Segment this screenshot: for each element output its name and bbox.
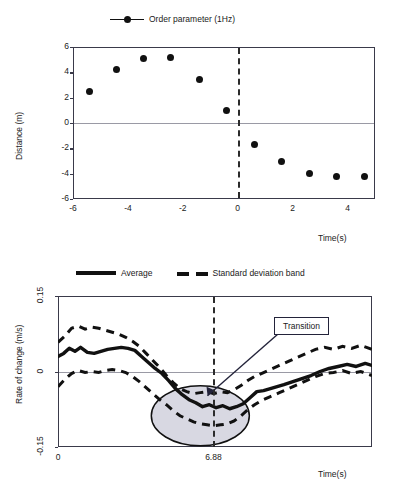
x-tick-top: -2	[173, 203, 193, 213]
x-axis-title-top: Time(s)	[318, 233, 346, 243]
legend-marker-order-parameter	[110, 19, 144, 20]
y-tickmark-top	[70, 47, 73, 48]
x-tick-top: 2	[283, 203, 303, 213]
x-tick-top: -6	[63, 203, 83, 213]
transition-line-bottom	[213, 297, 215, 447]
x-tick-top: -4	[118, 203, 138, 213]
y-tick-top: -6	[47, 193, 69, 203]
data-point	[306, 170, 313, 177]
data-point	[140, 55, 147, 62]
transition-line-top	[238, 48, 240, 198]
transition-callout-box: Transition	[274, 317, 329, 335]
data-point	[196, 76, 203, 83]
x-tick-top: 4	[338, 203, 358, 213]
transition-arrow-line	[208, 334, 278, 396]
data-point	[167, 54, 174, 61]
y-tick-top: 6	[47, 41, 69, 51]
panel-order-parameter: Order parameter (1Hz) Distance (m) 6420-…	[0, 0, 399, 262]
y-tickmark-top	[70, 148, 73, 149]
x-axis-title-bottom: Time(s)	[318, 469, 346, 479]
legend-top: Order parameter (1Hz)	[110, 14, 235, 24]
y-tickmark-top	[70, 199, 73, 200]
y-tickmark-top	[70, 174, 73, 175]
data-point	[361, 173, 368, 180]
x-tick-top: 0	[228, 203, 248, 213]
y-tickmark-top	[70, 123, 73, 124]
y-tickmark-top	[70, 98, 73, 99]
y-tick-top: -4	[47, 168, 69, 178]
y-tick-top: 0	[47, 117, 69, 127]
y-axis-title-top: Distance (m)	[14, 112, 24, 160]
y-tick-top: 4	[47, 66, 69, 76]
series-overlay-bottom	[0, 262, 399, 498]
y-tickmark-top	[70, 72, 73, 73]
y-tick-top: -2	[47, 142, 69, 152]
zero-line-top	[74, 123, 374, 124]
legend-label-order-parameter: Order parameter (1Hz)	[149, 14, 235, 24]
transition-highlight-ellipse	[151, 386, 249, 446]
panel-rate-of-change: Average Standard deviation band Rate of …	[0, 262, 399, 498]
y-tick-top: 2	[47, 92, 69, 102]
